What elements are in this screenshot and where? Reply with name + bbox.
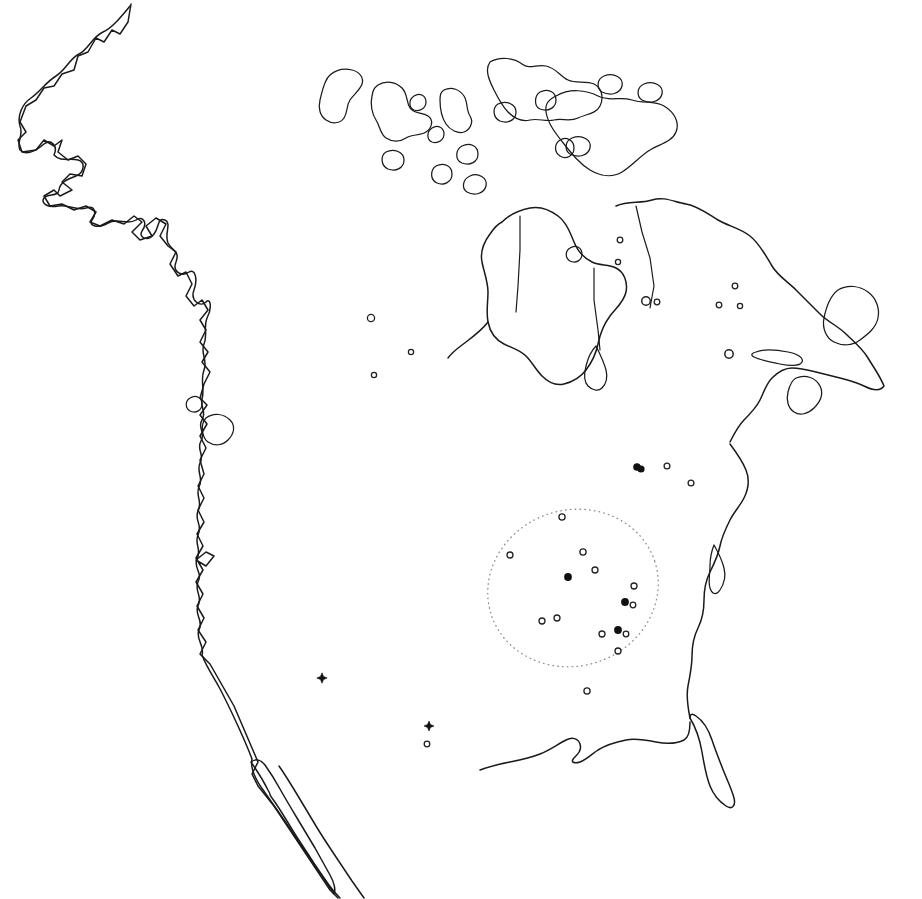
distribution-map-figure bbox=[0, 0, 922, 899]
point-open-circle[interactable] bbox=[654, 299, 660, 305]
point-open-circle[interactable] bbox=[367, 314, 374, 321]
point-open-circle[interactable] bbox=[615, 648, 621, 654]
point-open-circle[interactable] bbox=[631, 583, 637, 589]
point-open-circle[interactable] bbox=[584, 688, 590, 694]
point-open-circle[interactable] bbox=[580, 549, 586, 555]
point-filled-circle[interactable] bbox=[614, 626, 622, 634]
point-filled-circle[interactable] bbox=[621, 598, 629, 606]
point-open-circle[interactable] bbox=[424, 741, 430, 747]
point-open-circle[interactable] bbox=[592, 567, 598, 573]
map-background bbox=[0, 0, 922, 899]
point-open-circle[interactable] bbox=[615, 259, 620, 264]
point-large-open-circle[interactable] bbox=[642, 297, 651, 306]
point-open-circle[interactable] bbox=[732, 283, 738, 289]
point-open-circle[interactable] bbox=[539, 618, 545, 624]
point-open-circle[interactable] bbox=[617, 237, 623, 243]
point-open-circle[interactable] bbox=[623, 631, 629, 637]
point-open-circle[interactable] bbox=[599, 631, 605, 637]
point-open-circle[interactable] bbox=[554, 615, 560, 621]
point-filled-circle[interactable] bbox=[564, 573, 572, 581]
point-open-circle[interactable] bbox=[688, 480, 694, 486]
point-large-open-circle[interactable] bbox=[725, 350, 733, 358]
point-open-circle[interactable] bbox=[737, 303, 742, 308]
point-open-circle[interactable] bbox=[664, 463, 670, 469]
point-open-circle[interactable] bbox=[559, 514, 565, 520]
point-open-circle[interactable] bbox=[507, 552, 513, 558]
point-filled-circle[interactable] bbox=[637, 465, 644, 472]
point-open-circle[interactable] bbox=[716, 302, 722, 308]
point-open-circle[interactable] bbox=[630, 602, 636, 608]
north-america-map-canvas bbox=[0, 0, 922, 899]
point-open-circle[interactable] bbox=[408, 349, 413, 354]
point-open-circle[interactable] bbox=[371, 372, 376, 377]
